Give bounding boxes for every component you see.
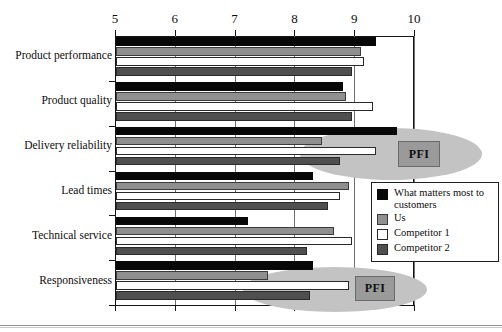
black-square-icon [377,189,388,200]
legend-label-competitor-1: Competitor 1 [394,227,450,239]
tick-top-8 [294,30,295,36]
bar-us-delivery-reliability [116,137,322,146]
tick-bottom-10 [414,305,415,311]
pfi-label-responsiveness: PFI [355,276,395,301]
category-tick-2 [109,126,115,127]
bar-us-technical-service [116,227,334,236]
bar-us-responsiveness [116,271,268,280]
bar-competitor-1-lead-times [116,192,340,201]
legend-row-competitor-2: Competitor 2 [377,242,495,255]
footer-divider-secondary [0,327,502,328]
pfi-label-delivery-text: PFI [409,147,430,162]
dark-gray-square-icon [377,244,388,255]
x-tick-label-6: 6 [162,11,188,26]
legend-label-matters: What matters most to customers [394,187,495,210]
tick-top-9 [354,30,355,36]
bar-competitor-2-delivery-reliability [116,157,340,166]
y-axis-category-labels: Product performanceProduct qualityDelive… [0,0,112,332]
chart-legend: What matters most to customersUsCompetit… [371,182,499,262]
bar-competitor-2-product-performance [116,67,352,76]
tick-top-7 [235,30,236,36]
legend-row-matters: What matters most to customers [377,187,495,210]
category-label-lead-times: Lead times [0,184,112,197]
footer-divider [0,325,502,326]
bar-competitor-2-product-quality [116,112,352,121]
pfi-label-delivery: PFI [398,141,440,167]
bar-us-product-performance [116,47,361,56]
category-label-responsiveness: Responsiveness [0,274,112,287]
x-tick-label-8: 8 [281,11,307,26]
pfi-label-responsiveness-text: PFI [365,281,386,296]
tick-bottom-7 [235,305,236,311]
bar-us-product-quality [116,92,346,101]
x-tick-label-10: 10 [401,11,427,26]
tick-top-10 [414,30,415,36]
category-label-delivery-reliability: Delivery reliability [0,139,112,152]
bar-matters-product-quality [116,82,343,91]
tick-bottom-6 [175,305,176,311]
legend-row-competitor-1: Competitor 1 [377,227,495,240]
category-label-technical-service: Technical service [0,229,112,242]
category-tick-4 [109,215,115,216]
bar-us-lead-times [116,182,349,191]
bar-competitor-1-responsiveness [116,281,349,290]
chart-figure: 5678910 Product performanceProduct quali… [0,0,502,332]
x-tick-label-9: 9 [341,11,367,26]
bar-competitor-1-technical-service [116,237,352,246]
bar-competitor-2-technical-service [116,247,307,256]
bar-matters-lead-times [116,172,313,181]
bar-competitor-2-responsiveness [116,291,310,300]
bar-competitor-1-product-quality [116,102,373,111]
tick-top-5 [115,30,116,36]
gray-square-icon [377,214,388,225]
category-label-product-performance: Product performance [0,49,112,62]
category-tick-5 [109,260,115,261]
category-label-product-quality: Product quality [0,94,112,107]
white-square-icon [377,229,388,240]
bar-matters-responsiveness [116,261,313,270]
tick-top-6 [175,30,176,36]
legend-label-competitor-2: Competitor 2 [394,242,450,254]
bar-matters-delivery-reliability [116,127,397,136]
bar-competitor-1-delivery-reliability [116,147,376,156]
bar-competitor-2-lead-times [116,202,328,211]
category-tick-3 [109,171,115,172]
legend-row-us: Us [377,212,495,225]
bar-matters-technical-service [116,217,248,226]
tick-bottom-5 [115,305,116,311]
category-tick-6 [109,305,115,306]
legend-label-us: Us [394,212,406,224]
x-tick-label-7: 7 [222,11,248,26]
bar-competitor-1-product-performance [116,57,364,66]
bar-matters-product-performance [116,37,376,46]
category-tick-1 [109,81,115,82]
